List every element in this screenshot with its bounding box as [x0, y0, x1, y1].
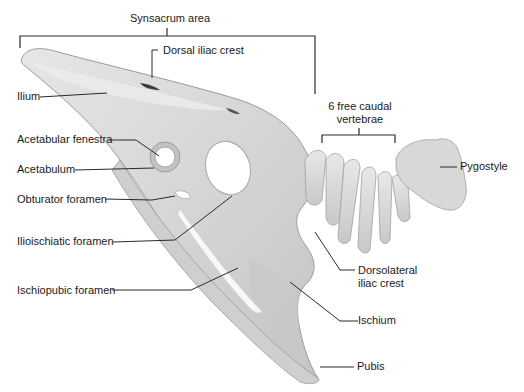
- label-acetabular-fenestra: Acetabular fenestra: [17, 133, 112, 146]
- label-free-caudal-vertebrae: 6 free caudal vertebrae: [325, 100, 395, 126]
- label-ilium: Ilium: [17, 90, 40, 103]
- label-synsacrum-area: Synsacrum area: [130, 12, 210, 25]
- label-ilioischiatic-foramen: Ilioischiatic foramen: [17, 235, 114, 248]
- label-dorsolateral-line1: Dorsolateral: [358, 264, 417, 277]
- label-dorsal-iliac-crest: Dorsal iliac crest: [163, 44, 244, 57]
- caudal-bracket: [322, 128, 395, 143]
- label-dorsolateral-line2: iliac crest: [358, 277, 417, 290]
- pelvis-bone: [21, 49, 319, 384]
- label-acetabulum: Acetabulum: [17, 163, 75, 176]
- pelvis-diagram: Synsacrum area Dorsal iliac crest Ilium …: [0, 0, 524, 392]
- label-pygostyle: Pygostyle: [460, 160, 508, 173]
- label-ischium: Ischium: [358, 314, 396, 327]
- acetabular-fenestra-hole: [155, 147, 175, 167]
- caudal-vertebrae: [305, 150, 410, 252]
- label-ischiopubic-foramen: Ischiopubic foramen: [17, 284, 115, 297]
- label-free-caudal-line1: 6 free caudal: [325, 100, 395, 113]
- label-free-caudal-line2: vertebrae: [325, 113, 395, 126]
- label-dorsolateral-iliac-crest: Dorsolateral iliac crest: [358, 264, 417, 290]
- label-obturator-foramen: Obturator foramen: [17, 193, 107, 206]
- label-pubis: Pubis: [357, 360, 385, 373]
